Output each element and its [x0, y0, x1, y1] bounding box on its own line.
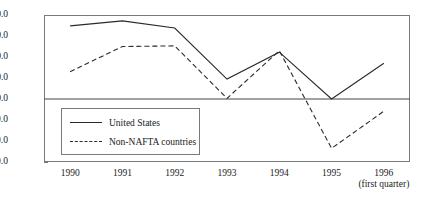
x-tick-label: 1996(first quarter) — [358, 168, 409, 190]
chart-legend: United States Non-NAFTA countries — [61, 108, 200, 155]
legend-label: Non-NAFTA countries — [109, 137, 196, 147]
y-tick-label: 0.0 — [0, 94, 8, 104]
x-tick-note: (first quarter) — [358, 179, 409, 190]
y-tick-label: 20.0 — [0, 52, 8, 62]
y-tick-label: -30.0 — [0, 157, 8, 167]
x-tick-label: 1990 — [61, 168, 80, 179]
y-tick-label: 40.0 — [0, 10, 8, 20]
y-tick-label: 10.0 — [0, 73, 8, 83]
x-tick-label: 1995 — [322, 168, 341, 179]
y-tick-label: -20.0 — [0, 136, 8, 146]
legend-line-solid-icon — [70, 119, 102, 127]
x-tick-label: 1991 — [113, 168, 132, 179]
y-tick-label: -10.0 — [0, 115, 8, 125]
x-tick-label: 1992 — [165, 168, 184, 179]
legend-label: United States — [109, 118, 160, 128]
y-tick-mark — [44, 162, 48, 163]
series-line-united-states — [70, 21, 384, 99]
x-tick-label: 1993 — [218, 168, 237, 179]
legend-item-non-nafta-countries: Non-NAFTA countries — [70, 135, 196, 149]
chart-container: 40.030.020.010.00.0-10.0-20.0-30.0 19901… — [0, 0, 422, 207]
x-tick-label: 1994 — [270, 168, 289, 179]
legend-line-dashed-icon — [70, 138, 102, 146]
legend-item-united-states: United States — [70, 116, 160, 130]
y-tick-label: 30.0 — [0, 31, 8, 41]
